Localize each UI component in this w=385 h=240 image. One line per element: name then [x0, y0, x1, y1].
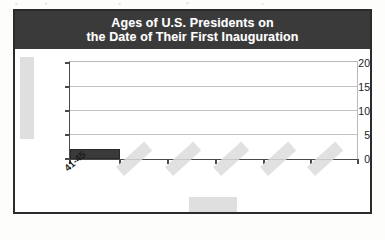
gridline-15: [70, 86, 357, 87]
scan-artifact: [262, 3, 264, 5]
gridline-5: [70, 134, 357, 135]
plot-region: 20 15 10 5 0: [15, 49, 370, 216]
scan-artifact: [15, 3, 18, 5]
scanned-page: Ages of U.S. Presidents on the Date of T…: [0, 0, 385, 240]
redaction-y-axis-title: [20, 57, 34, 139]
x-tick-mark: [357, 159, 359, 164]
scan-artifact: [45, 2, 47, 5]
chart-title-line-1: Ages of U.S. Presidents on: [111, 16, 273, 30]
plot-area: [69, 61, 358, 160]
gridline-10: [70, 110, 357, 111]
chart-title-line-2: the Date of Their First Inauguration: [87, 30, 299, 45]
x-category-label-41-45: 41-45: [62, 149, 87, 173]
scan-artifact: [186, 2, 189, 4]
chart-title-banner: Ages of U.S. Presidents on the Date of T…: [15, 11, 370, 49]
chart-title: Ages of U.S. Presidents on the Date of T…: [87, 16, 299, 45]
redaction-x-axis-title: [189, 197, 237, 212]
scan-artifact: [118, 3, 121, 5]
chart-figure: Ages of U.S. Presidents on the Date of T…: [13, 9, 372, 214]
